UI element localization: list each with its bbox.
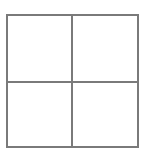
quadrant-bottom-left xyxy=(7,82,72,147)
quadrant-top-left xyxy=(7,15,72,80)
four-pane-grid xyxy=(6,14,139,148)
quadrant-bottom-right xyxy=(73,82,138,147)
figure-canvas xyxy=(0,0,145,154)
quadrant-top-right xyxy=(73,15,138,80)
